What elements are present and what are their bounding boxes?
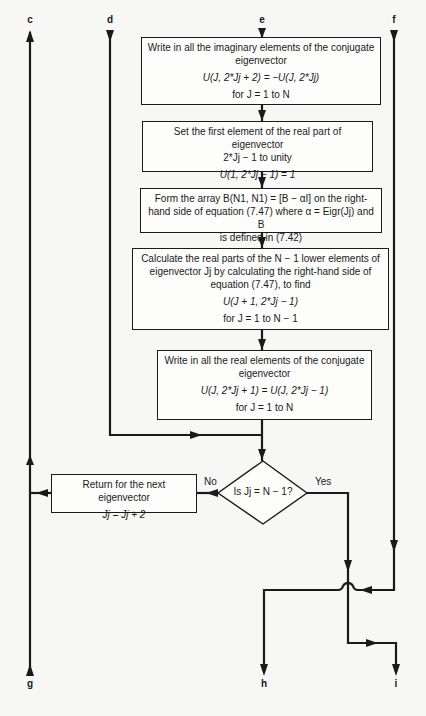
arrow-down-i-icon (392, 664, 400, 676)
box-range: for J = 1 to N (147, 88, 375, 101)
connector-i: i (389, 678, 403, 689)
box-equation: U(J + 1, 2*Jj − 1) (138, 295, 383, 308)
arrow-up-g-icon (26, 664, 34, 676)
arrow-down-h-icon (260, 664, 268, 676)
box-text: Write in all the real elements of the co… (163, 354, 366, 367)
box-text: 2*Jj − 1 to unity (148, 151, 367, 164)
box-range: for J = 1 to N (163, 401, 366, 414)
process-box-return-next: Return for the next eigenvector Jj = Jj … (51, 474, 197, 513)
arrow-up-c-icon (26, 30, 34, 42)
process-box-calculate-real-parts: Calculate the real parts of the N − 1 lo… (132, 248, 389, 330)
process-box-set-first-element: Set the first element of the real part o… (142, 121, 373, 172)
no-label: No (204, 476, 217, 487)
box-text: Set the first element of the real part o… (148, 125, 367, 151)
process-box-form-array: Form the array B(N1, N1) = [B − αI] on t… (140, 188, 382, 233)
connector-c: c (23, 14, 37, 25)
box-range: for J = 1 to N − 1 (138, 312, 383, 325)
box-text: hand side of equation (7.47) where α = E… (146, 205, 376, 231)
box-text: Write in all the imaginary elements of t… (147, 41, 375, 54)
box-text: eigenvector Jj by calculating the right-… (138, 265, 383, 278)
connector-e: e (255, 14, 269, 25)
connector-h: h (257, 678, 271, 689)
box-text: eigenvector (147, 54, 375, 67)
arrow-down-d-icon (106, 30, 114, 42)
box-text: equation (7.47), to find (138, 278, 383, 291)
connector-f: f (387, 14, 401, 25)
arrow-down-f-icon (390, 30, 398, 42)
connector-g: g (23, 678, 37, 689)
box-equation: U(J, 2*Jj + 2) = −U(J, 2*Jj) (147, 71, 375, 84)
box-text: Return for the next eigenvector (57, 478, 191, 504)
yes-label: Yes (315, 476, 331, 487)
connector-d: d (103, 14, 117, 25)
box-equation: Jj = Jj + 2 (57, 508, 191, 521)
box-equation: U(J, 2*Jj + 1) = U(J, 2*Jj − 1) (163, 384, 366, 397)
decision-question: Is Jj = N − 1? (218, 486, 308, 497)
process-box-write-imaginary: Write in all the imaginary elements of t… (141, 37, 381, 105)
box-text: eigenvector (163, 367, 366, 380)
box-text: Calculate the real parts of the N − 1 lo… (138, 252, 383, 265)
box-text: is defined in (7.42) (146, 231, 376, 244)
process-box-write-real: Write in all the real elements of the co… (157, 350, 372, 420)
box-equation: U(1, 2*Jj − 1) = 1 (148, 168, 367, 181)
box-text: Form the array B(N1, N1) = [B − αI] on t… (146, 192, 376, 205)
